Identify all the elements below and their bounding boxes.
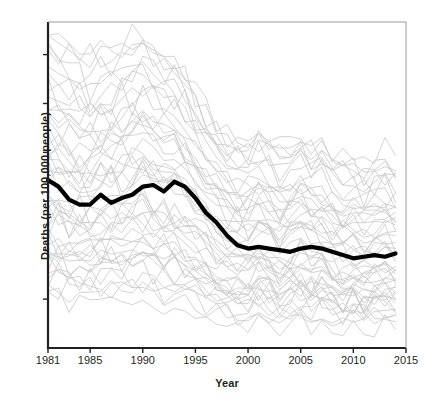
background-series-group — [48, 24, 395, 337]
background-line — [48, 40, 395, 179]
background-line — [48, 213, 395, 286]
x-axis-tick-label: 1981 — [36, 354, 60, 366]
background-line — [48, 85, 395, 222]
x-axis-title: Year — [48, 377, 406, 389]
chart-figure: Deaths (per 100,000 people) Year 1981198… — [0, 0, 439, 403]
x-axis-tick-label: 2010 — [341, 354, 365, 366]
plot-area — [0, 0, 439, 403]
y-axis-title: Deaths (per 100,000 people) — [39, 56, 51, 316]
x-axis-tick-label: 1985 — [78, 354, 102, 366]
x-axis-tick-label: 1990 — [131, 354, 155, 366]
x-axis-tick-label: 2005 — [288, 354, 312, 366]
background-line — [48, 121, 395, 228]
x-axis-tick-label: 2015 — [394, 354, 418, 366]
x-axis-tick-label: 2000 — [236, 354, 260, 366]
background-line — [48, 24, 395, 172]
x-axis-tick-label: 1995 — [183, 354, 207, 366]
